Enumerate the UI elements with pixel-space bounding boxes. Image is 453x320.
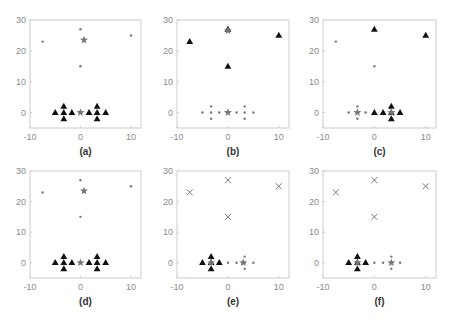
y-tick-label: 20 <box>16 197 26 207</box>
triangle-marker-icon <box>60 115 67 121</box>
y-tick-label: 0 <box>21 108 26 118</box>
y-tick-label: 20 <box>163 46 173 56</box>
triangle-marker-icon <box>371 26 378 32</box>
triangle-marker-icon <box>354 253 361 259</box>
dot-marker-icon <box>364 111 366 113</box>
triangle-marker-icon <box>208 253 215 259</box>
triangle-marker-icon <box>60 259 67 265</box>
triangle-marker-icon <box>94 103 101 109</box>
x-tick-label: 0 <box>372 282 377 292</box>
series-cluster-dots <box>41 179 132 218</box>
series-cluster-triangles <box>186 26 282 69</box>
series-cluster-dots <box>227 255 255 270</box>
triangle-marker-icon <box>208 265 215 271</box>
subplot-c: 0102030-10010(c) <box>309 15 436 157</box>
series-cluster-crosses <box>333 177 429 220</box>
cross-marker-icon <box>276 183 282 189</box>
y-tick-label: 0 <box>21 258 26 268</box>
triangle-marker-icon <box>94 265 101 271</box>
dot-marker-icon <box>356 118 358 120</box>
figure-canvas: 0102030-10010(a)0102030-10010(b)0102030-… <box>0 0 453 320</box>
dot-marker-icon <box>210 118 212 120</box>
y-tick-label: 0 <box>168 108 173 118</box>
triangle-marker-icon <box>275 32 282 38</box>
x-tick-label: 10 <box>421 132 431 142</box>
cross-marker-icon <box>225 214 231 220</box>
series-cluster-dots <box>335 40 376 120</box>
dot-marker-icon <box>79 65 81 67</box>
subplot-caption: (f) <box>375 296 385 307</box>
subplot-caption: (c) <box>373 146 385 157</box>
x-tick-label: 10 <box>126 282 136 292</box>
dot-marker-icon <box>244 111 246 113</box>
triangle-marker-icon <box>60 265 67 271</box>
series-centroids <box>224 27 232 116</box>
x-tick-label: 0 <box>78 132 83 142</box>
y-tick-label: 30 <box>16 15 26 25</box>
dot-marker-icon <box>79 179 81 181</box>
y-tick-label: 30 <box>309 15 319 25</box>
triangle-marker-icon <box>60 253 67 259</box>
series-cluster-crosses <box>187 177 282 220</box>
dot-marker-icon <box>373 262 375 264</box>
triangle-marker-icon <box>186 38 193 44</box>
y-tick-label: 30 <box>163 15 173 25</box>
dot-marker-icon <box>244 118 246 120</box>
dot-marker-icon <box>41 191 43 193</box>
y-tick-label: 20 <box>309 197 319 207</box>
axes-box <box>177 20 289 128</box>
triangle-marker-icon <box>52 259 59 265</box>
cross-marker-icon <box>225 177 231 183</box>
triangle-marker-icon <box>60 103 67 109</box>
x-tick-label: 0 <box>225 132 230 142</box>
cross-marker-icon <box>371 177 377 183</box>
subplot-e: 0102030-10010(e) <box>163 166 289 307</box>
dot-marker-icon <box>201 111 203 113</box>
star-marker-icon <box>387 259 395 267</box>
y-tick-label: 10 <box>309 77 319 87</box>
cross-marker-icon <box>371 214 377 220</box>
dot-marker-icon <box>41 40 43 42</box>
triangle-marker-icon <box>216 259 223 265</box>
x-tick-label: -10 <box>316 282 329 292</box>
triangle-marker-icon <box>94 259 101 265</box>
triangle-marker-icon <box>345 259 352 265</box>
triangle-marker-icon <box>422 32 429 38</box>
triangle-marker-icon <box>52 109 59 115</box>
star-marker-icon <box>224 27 232 35</box>
triangle-marker-icon <box>94 253 101 259</box>
star-marker-icon <box>353 108 361 116</box>
x-tick-label: -10 <box>170 132 183 142</box>
subplot-f: 0102030-10010(f) <box>309 166 436 307</box>
triangle-marker-icon <box>388 115 395 121</box>
dot-marker-icon <box>335 40 337 42</box>
triangle-marker-icon <box>354 265 361 271</box>
dot-marker-icon <box>390 268 392 270</box>
y-tick-label: 30 <box>16 166 26 176</box>
subplot-d: 0102030-10010(d) <box>16 166 141 307</box>
axes-box <box>323 171 436 278</box>
triangle-marker-icon <box>380 109 387 115</box>
dot-marker-icon <box>347 111 349 113</box>
triangle-marker-icon <box>225 63 232 69</box>
y-tick-label: 30 <box>309 166 319 176</box>
triangle-marker-icon <box>371 109 378 115</box>
axes-box <box>30 20 141 128</box>
triangle-marker-icon <box>362 259 369 265</box>
triangle-marker-icon <box>86 109 93 115</box>
x-tick-label: 0 <box>78 282 83 292</box>
dot-marker-icon <box>130 34 132 36</box>
dot-marker-icon <box>227 262 229 264</box>
triangle-marker-icon <box>68 259 75 265</box>
dot-marker-icon <box>382 262 384 264</box>
triangle-marker-icon <box>102 109 109 115</box>
dot-marker-icon <box>356 105 358 107</box>
y-tick-label: 10 <box>163 227 173 237</box>
axes-box <box>30 171 141 278</box>
star-marker-icon <box>76 108 84 116</box>
dot-marker-icon <box>252 262 254 264</box>
subplot-caption: (a) <box>79 146 91 157</box>
dot-marker-icon <box>252 111 254 113</box>
subplot-caption: (d) <box>79 296 92 307</box>
triangle-marker-icon <box>94 109 101 115</box>
